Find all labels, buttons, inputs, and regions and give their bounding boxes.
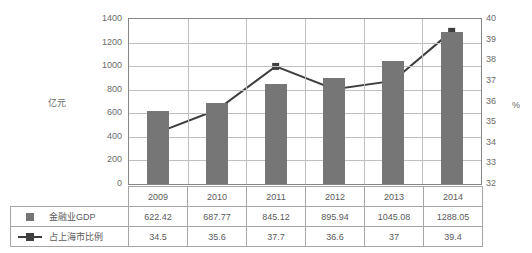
legend-row-label: 金融业GDP — [11, 207, 129, 227]
plot-area — [128, 18, 482, 185]
left-axis-tick-label: 1400 — [82, 13, 122, 23]
bar — [441, 32, 463, 184]
category-separator — [188, 19, 189, 184]
category-separator — [246, 19, 247, 184]
left-axis-tick-label: 600 — [82, 107, 122, 117]
category-separator — [364, 19, 365, 184]
right-axis-tick-label: 36 — [486, 96, 508, 106]
table-corner-cell — [11, 187, 129, 207]
right-axis-tick-label: 35 — [486, 116, 508, 126]
table-value-cell: 622.42 — [129, 207, 188, 227]
bar — [265, 84, 287, 184]
table-year-header: 2013 — [365, 187, 424, 207]
table-year-header: 2014 — [424, 187, 483, 207]
right-axis-tick-label: 32 — [486, 178, 508, 188]
table-row: 金融业GDP622.42687.77845.12895.941045.08128… — [11, 207, 483, 227]
category-separator — [305, 19, 306, 184]
line-marker-icon — [17, 232, 43, 241]
table-value-cell: 895.94 — [306, 207, 365, 227]
left-axis-ticks: 1400120010008006004002000 — [78, 18, 122, 185]
series-name: 金融业GDP — [49, 210, 96, 223]
left-axis-tick-label: 1000 — [82, 60, 122, 70]
table-year-header: 2009 — [129, 187, 188, 207]
bar — [382, 61, 404, 184]
table-value-cell: 37 — [365, 227, 424, 247]
bar — [147, 111, 169, 184]
table-value-cell: 35.6 — [188, 227, 247, 247]
right-axis-tick-label: 37 — [486, 75, 508, 85]
square-icon — [17, 212, 43, 221]
table-value-cell: 37.7 — [247, 227, 306, 247]
bar — [323, 78, 345, 184]
left-axis-tick-label: 400 — [82, 131, 122, 141]
legend-row-label: 占上海市比例 — [11, 227, 129, 247]
table-value-cell: 687.77 — [188, 207, 247, 227]
right-axis-ticks: 403938373635343332 — [486, 18, 516, 185]
financial-gdp-chart: 亿元 % 1400120010008006004002000 403938373… — [0, 0, 532, 253]
bar — [206, 103, 228, 184]
table-value-cell: 34.5 — [129, 227, 188, 247]
left-axis-title: 亿元 — [48, 96, 66, 109]
right-axis-tick-label: 34 — [486, 137, 508, 147]
left-axis-tick-label: 800 — [82, 84, 122, 94]
data-table: 200920102011201220132014金融业GDP622.42687.… — [10, 186, 483, 247]
series-name: 占上海市比例 — [49, 230, 103, 243]
table-header-row: 200920102011201220132014 — [11, 187, 483, 207]
right-axis-tick-label: 33 — [486, 157, 508, 167]
table-value-cell: 1288.05 — [424, 207, 483, 227]
right-axis-tick-label: 39 — [486, 34, 508, 44]
right-axis-tick-label: 40 — [486, 13, 508, 23]
table-value-cell: 1045.08 — [365, 207, 424, 227]
left-axis-tick-label: 1200 — [82, 37, 122, 47]
category-separator — [422, 19, 423, 184]
right-axis-tick-label: 38 — [486, 54, 508, 64]
table-value-cell: 36.6 — [306, 227, 365, 247]
table-year-header: 2011 — [247, 187, 306, 207]
table-year-header: 2012 — [306, 187, 365, 207]
left-axis-tick-label: 200 — [82, 154, 122, 164]
table-value-cell: 39.4 — [424, 227, 483, 247]
table-value-cell: 845.12 — [247, 207, 306, 227]
table-row: 占上海市比例34.535.637.736.63739.4 — [11, 227, 483, 247]
table-year-header: 2010 — [188, 187, 247, 207]
